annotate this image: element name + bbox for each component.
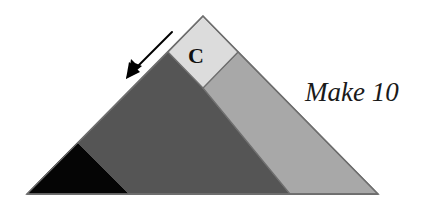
triangle-diagram: C Make 10 (0, 0, 424, 208)
make-ten-annotation: Make 10 (304, 77, 399, 107)
square-c-label: C (188, 43, 204, 68)
figure-canvas: C Make 10 (0, 0, 424, 208)
